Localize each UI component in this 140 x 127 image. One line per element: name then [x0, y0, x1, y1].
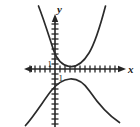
y-axis-ticks [52, 24, 59, 124]
x-axis-arrow-left-icon [24, 66, 32, 72]
coordinate-plane: x y 1 1 [0, 0, 140, 127]
y-unit-tick-label: 1 [48, 59, 53, 69]
x-axis-arrow-right-icon [118, 66, 126, 72]
y-axis-arrow-up-icon [52, 14, 58, 22]
curve-upper-branch [39, 6, 106, 67]
y-axis-label: y [55, 3, 62, 15]
x-axis-label: x [127, 63, 134, 75]
y-axis [52, 14, 59, 127]
x-unit-tick-label: 1 [59, 73, 64, 83]
curve-lower-branch [26, 79, 120, 126]
graph-figure: x y 1 1 [0, 0, 140, 127]
